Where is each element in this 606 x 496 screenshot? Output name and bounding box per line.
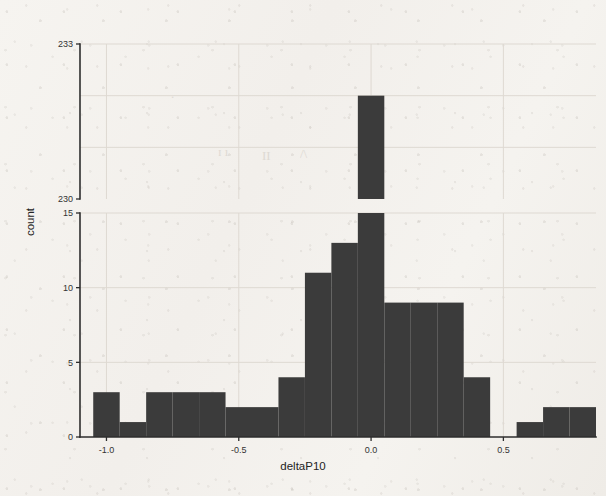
y-tick-label: 0 bbox=[68, 432, 73, 442]
y-tick-label: 5 bbox=[68, 358, 73, 368]
histogram-bar bbox=[226, 407, 252, 437]
histogram-bar bbox=[305, 273, 331, 437]
histogram-bar bbox=[358, 213, 384, 437]
histogram-bar bbox=[146, 392, 172, 437]
histogram-bar bbox=[252, 407, 278, 437]
histogram-bar bbox=[120, 422, 146, 437]
histogram-bar-upper bbox=[358, 96, 384, 199]
histogram-bar bbox=[543, 407, 569, 437]
histogram-figure: ɪ ı II /\ . -1.0-0.50.00.5051015230233 d… bbox=[0, 0, 606, 496]
y-axis-label: count bbox=[24, 207, 36, 236]
svg-text:ɪ ı: ɪ ı bbox=[218, 144, 229, 159]
histogram-bar bbox=[464, 377, 490, 437]
y-tick-label-upper: 233 bbox=[58, 39, 73, 49]
svg-text:II: II bbox=[262, 148, 271, 163]
histogram-bar bbox=[93, 392, 119, 437]
x-tick-label: 0.5 bbox=[497, 445, 510, 455]
svg-text:/\: /\ bbox=[300, 146, 308, 161]
svg-text:.: . bbox=[171, 86, 174, 101]
histogram-bar bbox=[199, 392, 225, 437]
x-tick-label: -0.5 bbox=[231, 445, 247, 455]
y-tick-label: 15 bbox=[63, 208, 73, 218]
histogram-svg: ɪ ı II /\ . -1.0-0.50.00.5051015230233 d… bbox=[0, 0, 606, 496]
y-tick-label: 10 bbox=[63, 283, 73, 293]
histogram-bar bbox=[570, 407, 596, 437]
histogram-bar bbox=[517, 422, 543, 437]
y-tick-label-upper: 230 bbox=[58, 194, 73, 204]
histogram-bar bbox=[384, 303, 410, 437]
histogram-bar bbox=[411, 303, 437, 437]
histogram-bar bbox=[173, 392, 199, 437]
x-tick-label: 0.0 bbox=[365, 445, 378, 455]
x-tick-label: -1.0 bbox=[99, 445, 115, 455]
histogram-bar bbox=[331, 243, 357, 437]
x-axis-label: deltaP10 bbox=[280, 460, 325, 472]
histogram-bar bbox=[278, 377, 304, 437]
scan-ghost-artifacts: ɪ ı II /\ . bbox=[171, 86, 308, 163]
histogram-bar bbox=[437, 303, 463, 437]
